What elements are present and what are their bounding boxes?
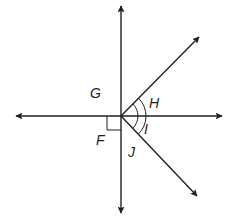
label-j: J (128, 145, 135, 159)
label-i: I (144, 122, 148, 136)
label-h: H (149, 96, 159, 110)
label-f: F (96, 133, 105, 147)
diagram-canvas: G H I F J (0, 0, 228, 217)
label-g: G (90, 86, 101, 100)
angle-diagram (0, 0, 228, 217)
right-angle-marker (107, 116, 121, 130)
